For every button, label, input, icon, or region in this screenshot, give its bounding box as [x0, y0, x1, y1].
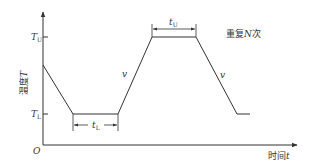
lower-duration-label: tL — [92, 120, 100, 131]
heating-rate-label: v — [122, 69, 127, 79]
temperature-profile-line — [43, 37, 250, 114]
upper-duration-label: tU — [169, 17, 178, 28]
y-axis-label: 温度T — [18, 70, 29, 95]
x-axis-label: 时间t — [268, 150, 290, 161]
temperature-cycle-diagram: TU TL O tU tL v v 重复N次 时间t 温度T — [0, 0, 311, 168]
cooling-rate-label: v — [220, 70, 225, 80]
lower-level-label: TL — [31, 109, 41, 120]
origin-label: O — [33, 146, 41, 156]
repeat-note: 重复N次 — [226, 28, 261, 39]
upper-level-label: TU — [31, 32, 42, 43]
